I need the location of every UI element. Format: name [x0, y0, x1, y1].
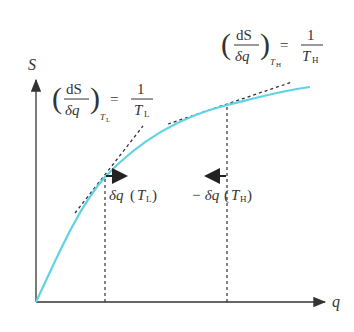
svg-text:(: (: [224, 187, 229, 204]
svg-text:(: (: [130, 187, 135, 204]
svg-text:L: L: [144, 109, 150, 119]
svg-text:): ): [260, 27, 270, 61]
svg-text:): ): [247, 187, 252, 204]
svg-text:L: L: [146, 194, 152, 204]
svg-text:dS: dS: [66, 81, 82, 97]
low-annotation: δq ( T L ): [109, 187, 157, 204]
svg-text:): ): [90, 81, 100, 115]
svg-text:(: (: [221, 27, 231, 61]
svg-text:T: T: [134, 102, 144, 118]
svg-text:− δq: − δq: [191, 187, 220, 203]
svg-text:1: 1: [137, 81, 145, 97]
svg-text:=: =: [110, 91, 118, 107]
svg-text:T: T: [302, 48, 312, 64]
svg-text:L: L: [106, 116, 110, 124]
y-axis-label: S: [28, 56, 36, 73]
svg-text:H: H: [276, 61, 281, 69]
svg-text:): ): [152, 187, 157, 204]
svg-text:H: H: [240, 194, 247, 204]
svg-text:δq: δq: [65, 102, 80, 118]
entropy-curve: [36, 87, 310, 302]
diagram-svg: S q ( dS δq ) T L = 1 T L ( dS δq ) T H …: [0, 0, 354, 332]
svg-text:δq: δq: [109, 187, 124, 203]
high-annotation: − δq ( T H ): [191, 187, 252, 204]
entropy-heat-diagram: S q ( dS δq ) T L = 1 T L ( dS δq ) T H …: [0, 0, 354, 332]
svg-text:1: 1: [307, 27, 315, 43]
low-equation: ( dS δq ) T L = 1 T L: [52, 81, 153, 124]
svg-text:H: H: [312, 55, 319, 65]
x-axis-label: q: [332, 293, 340, 311]
svg-text:dS: dS: [236, 27, 252, 43]
high-equation: ( dS δq ) T H = 1 T H: [221, 27, 323, 69]
svg-text:δq: δq: [235, 48, 250, 64]
svg-text:=: =: [280, 37, 288, 53]
svg-text:(: (: [52, 81, 62, 115]
